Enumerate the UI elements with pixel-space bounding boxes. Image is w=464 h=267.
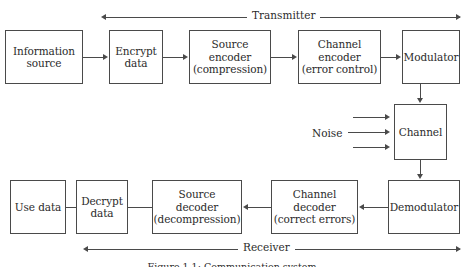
arrow-infosource-to-encrypt-line: [83, 57, 104, 58]
noise-arrow-1-head: [385, 114, 390, 120]
node-channel-encoder-line1: Channel: [302, 38, 378, 50]
node-channel[interactable]: Channel: [394, 104, 447, 160]
node-use-data-line1: Use data: [15, 201, 61, 213]
node-channel-decoder-line2: decoder: [274, 201, 355, 213]
noise-arrow-1-line: [353, 117, 386, 118]
node-encrypt-data-line2: data: [115, 57, 157, 69]
node-decrypt-data-line1: Decrypt: [81, 195, 123, 207]
node-decrypt-data[interactable]: Decrypt data: [76, 180, 128, 234]
node-channel-encoder[interactable]: Channel encoder (error control): [298, 30, 381, 84]
node-channel-decoder[interactable]: Channel decoder (correct errors): [271, 180, 358, 234]
node-information-source-line2: source: [13, 57, 75, 69]
node-use-data[interactable]: Use data: [10, 180, 66, 234]
receiver-label: Receiver: [238, 241, 295, 253]
arrow-sourcedec-to-decrypt-line: [128, 207, 152, 208]
receiver-span-arrow-left: [83, 246, 88, 252]
node-decrypt-data-line2: data: [81, 207, 123, 219]
node-channel-encoder-line3: (error control): [302, 63, 378, 75]
arrow-modulator-to-channel-head: [417, 98, 423, 103]
arrow-demod-to-chandec-head: [359, 204, 364, 210]
node-source-encoder-line1: Source: [193, 38, 267, 50]
arrow-encrypt-to-sourceenc-line: [163, 57, 184, 58]
node-channel-decoder-line1: Channel: [274, 188, 355, 200]
node-modulator-line1: Modulator: [404, 51, 459, 63]
noise-arrow-2-line: [348, 132, 386, 133]
node-source-encoder[interactable]: Source encoder (compression): [189, 30, 271, 84]
node-encrypt-data-line1: Encrypt: [115, 45, 157, 57]
arrow-channel-to-demodulator-head: [417, 174, 423, 179]
diagram-canvas: Transmitter Information source Encrypt d…: [0, 0, 464, 267]
node-source-decoder[interactable]: Source decoder (decompression): [152, 180, 242, 234]
node-channel-encoder-line2: encoder: [302, 51, 378, 63]
transmitter-span-arrow-right: [456, 14, 461, 20]
noise-arrow-2-head: [385, 129, 390, 135]
transmitter-span-arrow-left: [101, 14, 106, 20]
node-encrypt-data[interactable]: Encrypt data: [109, 30, 163, 84]
node-information-source[interactable]: Information source: [5, 30, 83, 84]
arrow-chanenc-to-modulator-head: [396, 54, 401, 60]
arrow-chandec-to-sourcedec-line: [248, 207, 271, 208]
node-demodulator-line1: Demodulator: [390, 201, 458, 213]
figure-caption: Figure 1.1: Communication system: [0, 261, 464, 267]
noise-label: Noise: [312, 127, 342, 139]
arrow-chandec-to-sourcedec-head: [243, 204, 248, 210]
node-source-decoder-line1: Source: [154, 188, 241, 200]
node-channel-decoder-line3: (correct errors): [274, 213, 355, 225]
arrow-sourceenc-to-chanenc-head: [292, 54, 297, 60]
arrow-sourceenc-to-chanenc-line: [271, 57, 293, 58]
arrow-infosource-to-encrypt-head: [103, 54, 108, 60]
receiver-span-arrow-right: [456, 246, 461, 252]
node-channel-line1: Channel: [399, 126, 442, 138]
node-modulator[interactable]: Modulator: [402, 30, 460, 84]
node-source-decoder-line3: (decompression): [154, 213, 241, 225]
node-source-encoder-line3: (compression): [193, 63, 267, 75]
noise-arrow-3-line: [353, 147, 386, 148]
node-demodulator[interactable]: Demodulator: [388, 180, 460, 234]
node-source-encoder-line2: encoder: [193, 51, 267, 63]
arrow-decrypt-to-usedata-line: [66, 207, 76, 208]
arrow-encrypt-to-sourceenc-head: [183, 54, 188, 60]
noise-arrow-3-head: [385, 144, 390, 150]
transmitter-label: Transmitter: [247, 9, 320, 21]
node-source-decoder-line2: decoder: [154, 201, 241, 213]
node-information-source-line1: Information: [13, 45, 75, 57]
arrow-demod-to-chandec-line: [364, 207, 388, 208]
